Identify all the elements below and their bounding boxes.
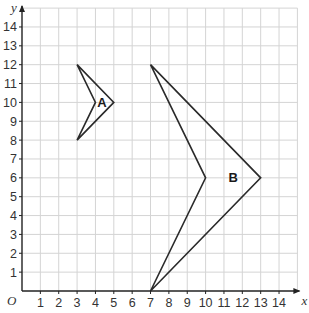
coordinate-grid-figure: x y O 1234567891011121314123456789101112… <box>0 0 309 313</box>
y-tick-label: 13 <box>3 39 17 53</box>
y-tick-label: 2 <box>10 247 17 261</box>
y-tick-label: 4 <box>10 209 17 223</box>
y-tick-label: 3 <box>10 228 17 242</box>
shape-label: A <box>97 95 107 110</box>
x-tick-label: 3 <box>74 296 81 310</box>
grid-lines <box>22 8 297 291</box>
y-tick-label: 8 <box>10 134 17 148</box>
x-tick-label: 4 <box>92 296 99 310</box>
y-tick-label: 11 <box>4 77 17 91</box>
y-tick-label: 6 <box>10 171 17 185</box>
y-tick-label: 12 <box>3 58 17 72</box>
tick-labels: 12345678910111213141234567891011121314 <box>3 20 286 310</box>
x-tick-label: 5 <box>110 296 117 310</box>
x-tick-label: 6 <box>129 296 136 310</box>
x-tick-label: 10 <box>199 296 213 310</box>
x-tick-label: 12 <box>235 296 249 310</box>
y-tick-label: 1 <box>10 266 17 280</box>
shape-label: B <box>228 170 237 185</box>
y-axis-label: y <box>9 0 17 15</box>
y-tick-label: 5 <box>10 190 17 204</box>
x-tick-label: 14 <box>272 296 286 310</box>
x-tick-label: 13 <box>254 296 268 310</box>
origin-label: O <box>7 293 17 308</box>
x-tick-label: 7 <box>147 296 154 310</box>
x-tick-label: 2 <box>55 296 62 310</box>
x-tick-label: 1 <box>37 296 44 310</box>
y-tick-label: 7 <box>10 152 17 166</box>
x-axis-label: x <box>300 293 307 308</box>
y-tick-label: 10 <box>3 96 17 110</box>
x-tick-label: 11 <box>217 296 230 310</box>
x-tick-label: 9 <box>184 296 191 310</box>
y-tick-label: 14 <box>3 20 17 34</box>
y-tick-label: 9 <box>10 115 17 129</box>
x-tick-label: 8 <box>165 296 172 310</box>
coordinate-plane: x y O 1234567891011121314123456789101112… <box>0 0 309 313</box>
